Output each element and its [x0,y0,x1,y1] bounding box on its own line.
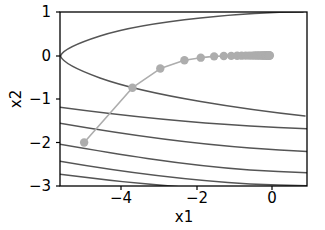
trajectory-point [197,53,205,61]
trajectory-point [180,56,188,64]
x-tick-label-2: 0 [267,189,277,207]
x-axis-title: x1 [175,208,193,226]
trajectory-point [128,83,136,91]
y-tick-label-2: −1 [29,90,51,108]
y-tick-label-1: 0 [41,47,51,65]
trajectory-point [266,51,274,59]
trajectory-point [210,52,218,60]
y-tick-label-0: 1 [41,3,51,21]
chart-canvas: −4 −2 0 1 0 −1 −2 −3 x1 x2 [0,0,325,230]
trajectory-point [80,138,88,146]
y-axis-title: x2 [7,90,25,108]
y-tick-label-3: −2 [29,134,51,152]
x-tick-label-0: −4 [110,189,132,207]
y-tick-label-4: −3 [29,177,51,195]
trajectory-point [156,64,164,72]
trajectory-point [220,52,228,60]
chart-figure: −4 −2 0 1 0 −1 −2 −3 x1 x2 [0,0,325,230]
x-tick-label-1: −2 [186,189,208,207]
